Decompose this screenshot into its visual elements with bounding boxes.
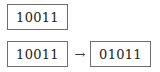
bitstring-input-text: 10011: [16, 47, 59, 62]
bitstring-output-text: 01011: [99, 47, 142, 62]
bitstring-box-input: 10011: [7, 41, 68, 67]
right-arrow-icon: →: [72, 44, 88, 64]
bitstring-original-text: 10011: [16, 10, 59, 25]
bitstring-box-original: 10011: [7, 4, 68, 30]
bitstring-box-output: 01011: [90, 41, 151, 67]
